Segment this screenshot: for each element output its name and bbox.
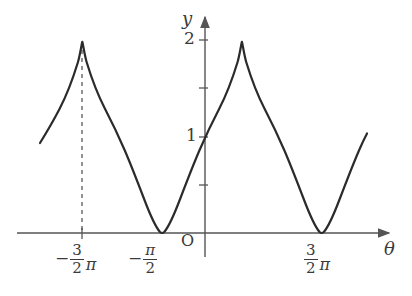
x-tick-label-three-pi-over-two: 3 2 π (303, 243, 330, 276)
fraction-numerator: π (143, 243, 157, 259)
fraction: 3 2 (70, 243, 84, 276)
x-tick-label-neg-three-pi-over-two: − 3 2 π (55, 243, 96, 276)
fraction-numerator: 3 (304, 243, 318, 259)
x-axis-label: θ (384, 240, 395, 258)
minus-sign: − (55, 250, 69, 267)
y-axis-label: y (182, 10, 192, 28)
fraction-denominator: 2 (70, 260, 84, 276)
origin-label: O (181, 233, 194, 249)
function-graph-figure: y θ 2 1 O − 3 2 π − π 2 3 2 π (0, 0, 412, 296)
fraction-denominator: 2 (304, 260, 318, 276)
pi-symbol: π (320, 257, 331, 273)
fraction: π 2 (143, 243, 157, 276)
minus-sign: − (128, 250, 142, 267)
fraction-numerator: 3 (70, 243, 84, 259)
pi-symbol: π (86, 257, 97, 273)
y-tick-label-2: 2 (184, 30, 195, 47)
x-tick-label-neg-pi-over-two: − π 2 (128, 243, 159, 276)
y-tick-label-1: 1 (186, 127, 197, 144)
fraction: 3 2 (304, 243, 318, 276)
fraction-denominator: 2 (143, 260, 157, 276)
